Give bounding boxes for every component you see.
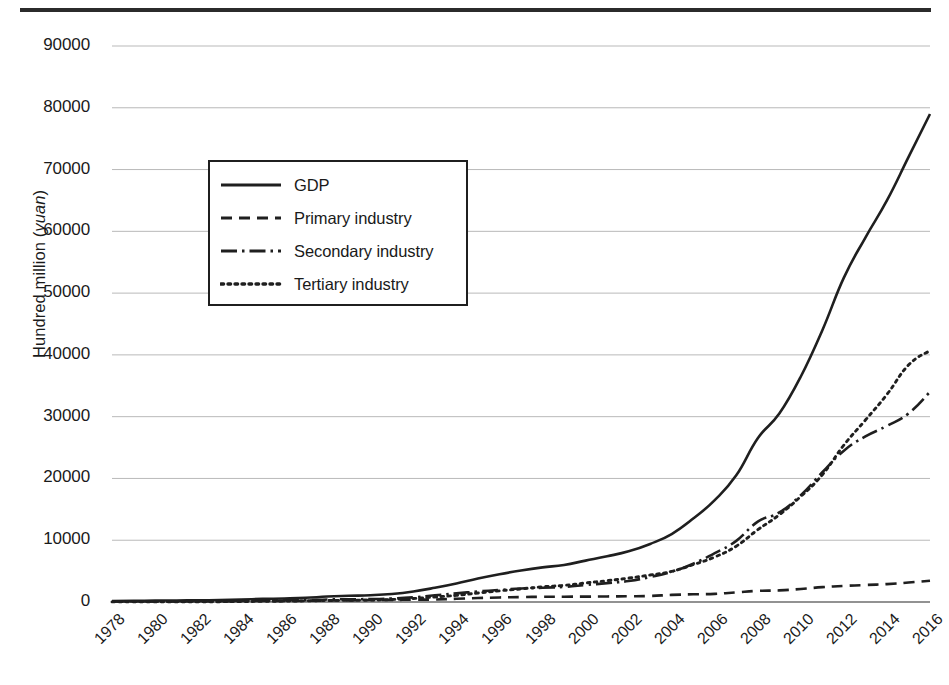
y-tick-label: 50000: [0, 282, 90, 302]
legend-swatch-solid-icon: [220, 178, 282, 192]
y-tick-label: 80000: [0, 97, 90, 117]
gridlines-group: [112, 46, 930, 602]
chart-plot: [0, 0, 949, 685]
series-line-tertiary-industry: [112, 351, 930, 602]
y-tick-label: 0: [0, 591, 90, 611]
legend-swatch-dotted-icon: [220, 277, 282, 291]
legend-label: Primary industry: [294, 209, 412, 228]
legend-item-primary-industry[interactable]: Primary industry: [220, 203, 412, 233]
y-tick-label: 10000: [0, 529, 90, 549]
legend-item-tertiary-industry[interactable]: Tertiary industry: [220, 269, 409, 299]
y-tick-label: 30000: [0, 406, 90, 426]
legend-label: Tertiary industry: [294, 275, 409, 294]
y-tick-label: 20000: [0, 467, 90, 487]
y-tick-label: 60000: [0, 220, 90, 240]
legend-item-gdp[interactable]: GDP: [220, 170, 329, 200]
legend-label: Secondary industry: [294, 242, 433, 261]
y-tick-label: 70000: [0, 159, 90, 179]
legend-label: GDP: [294, 176, 329, 195]
legend-swatch-dashdot-icon: [220, 244, 282, 258]
figure-container: Hundred million (yuan) 01000020000300004…: [0, 0, 949, 685]
y-tick-label: 40000: [0, 344, 90, 364]
legend-swatch-dashed-icon: [220, 211, 282, 225]
legend-item-secondary-industry[interactable]: Secondary industry: [220, 236, 433, 266]
legend[interactable]: GDPPrimary industrySecondary industryTer…: [208, 160, 468, 306]
y-tick-label: 90000: [0, 35, 90, 55]
